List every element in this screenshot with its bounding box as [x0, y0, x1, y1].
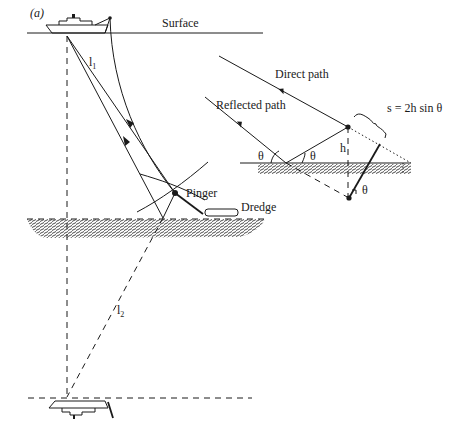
pinger-geometry-diagram: (a) Surface l1 Pinger Dredge l2	[0, 0, 459, 429]
dredge-icon	[205, 209, 238, 216]
panel-label: (a)	[30, 6, 44, 20]
direct-path-label: Direct path	[275, 67, 329, 81]
mirror-ship-icon	[49, 401, 113, 419]
inset-seabed-hatch	[258, 164, 411, 174]
image-dot	[346, 195, 351, 200]
ship-icon	[46, 14, 112, 33]
seabed-hatch	[27, 219, 265, 238]
theta-left-label: θ	[258, 149, 264, 163]
brace	[354, 114, 386, 138]
image-path-l2	[67, 218, 163, 397]
dredge-label: Dredge	[241, 200, 276, 214]
l1-label: l1	[89, 55, 96, 71]
arrow-icon	[278, 86, 287, 94]
theta-arc	[302, 153, 305, 163]
tow-cable	[110, 18, 175, 193]
source-dot	[345, 124, 350, 129]
theta-right-label: θ	[310, 149, 316, 163]
pinger-label: Pinger	[186, 186, 217, 200]
direct-path-l1	[67, 36, 175, 193]
surface-label: Surface	[162, 16, 199, 30]
reflection-inset: Direct path Reflected path s = 2h sin θ …	[205, 56, 442, 201]
formula-label: s = 2h sin θ	[387, 101, 442, 115]
reflected-path-line	[67, 36, 175, 218]
theta-arc	[271, 151, 279, 163]
reflected-path-label: Reflected path	[216, 98, 286, 112]
h-label: h	[340, 141, 346, 155]
theta-bottom-label: θ	[362, 183, 368, 197]
l2-label: l2	[117, 303, 124, 319]
